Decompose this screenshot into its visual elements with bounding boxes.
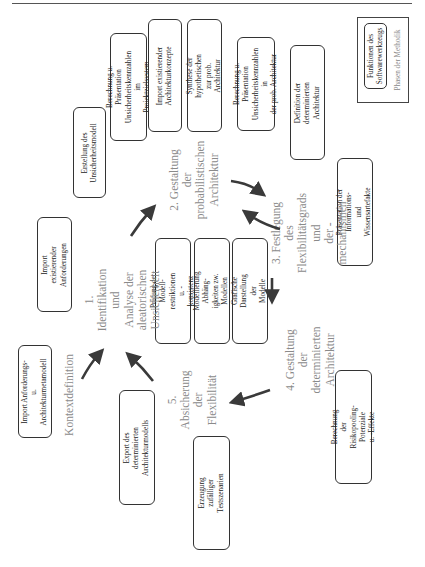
flow-arrows: [0, 0, 425, 567]
arrow-phase2-to-phase3: [231, 181, 260, 192]
arrow-phase3-to-phase2: [248, 214, 280, 229]
arrow-phase1-to-phase2: [131, 210, 151, 236]
arrow-phase5-to-phase1: [131, 357, 153, 381]
arrow-context-to-phase1: [82, 354, 99, 379]
arrow-phase4-to-phase5: [236, 390, 270, 401]
